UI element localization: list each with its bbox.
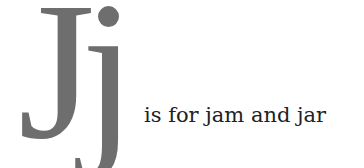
letter-jj: Jj <box>18 0 122 168</box>
caption-text: is for jam and jar <box>144 103 326 127</box>
